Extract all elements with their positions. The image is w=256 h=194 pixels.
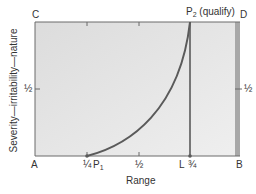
y-tick-left: ½ — [24, 84, 32, 94]
x-tick-three-quarter: ¾ — [188, 160, 196, 170]
y-axis-label: Severity—irritability—nature — [8, 26, 19, 156]
l-label: L — [179, 160, 185, 170]
corner-b: B — [236, 160, 243, 170]
corner-d: D — [240, 10, 247, 20]
y-tick-right: ½ — [244, 84, 252, 94]
corner-c: C — [32, 10, 39, 20]
l-point — [188, 154, 192, 158]
x-tick-quarter: ¼ — [83, 160, 91, 170]
x-tick-half: ½ — [135, 160, 143, 170]
corner-a: A — [31, 160, 38, 170]
p1-point — [85, 154, 89, 158]
p1-label: P1 — [93, 160, 104, 171]
movement-diagram — [0, 0, 256, 194]
x-axis-label: Range — [126, 176, 155, 186]
p2-label: P2 (qualify) — [186, 7, 235, 18]
diagram-area — [35, 22, 240, 156]
